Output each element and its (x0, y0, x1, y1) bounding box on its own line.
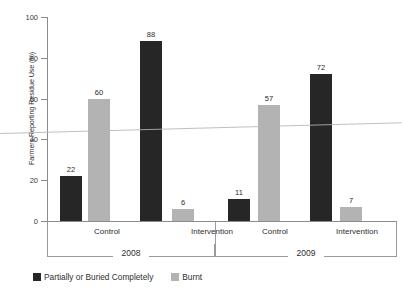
y-axis-tick-label: 60 (8, 95, 38, 104)
y-axis-tick-label: 20 (8, 176, 38, 185)
y-axis-tick-label: 100 (8, 13, 38, 22)
category-separator (47, 222, 48, 244)
legend-label: Burnt (182, 272, 202, 282)
y-axis-tick-label: 40 (8, 135, 38, 144)
plot-area (47, 17, 397, 221)
legend: Partially or Buried Completely Burnt (33, 272, 202, 282)
legend-swatch-icon (171, 273, 179, 281)
y-axis-tick-label: 80 (8, 54, 38, 63)
bar (310, 74, 332, 221)
y-axis-tick-label: 0 (8, 217, 38, 226)
year-label-2008: 2008 (47, 248, 215, 258)
bar (88, 99, 110, 221)
bar-value-label: 60 (88, 88, 110, 97)
legend-label: Partially or Buried Completely (44, 272, 153, 282)
legend-swatch-icon (33, 273, 41, 281)
bar-value-label: 7 (340, 196, 362, 205)
bar (60, 176, 82, 221)
bar (228, 199, 250, 221)
category-label: Intervention (307, 227, 402, 236)
bar-value-label: 11 (228, 188, 250, 197)
legend-item-burnt: Burnt (171, 272, 202, 282)
year-label-2009: 2009 (215, 248, 397, 258)
legend-item-partially-buried: Partially or Buried Completely (33, 272, 153, 282)
bar-value-label: 72 (310, 63, 332, 72)
bar-value-label: 57 (258, 94, 280, 103)
bar (258, 105, 280, 221)
bar-chart: Farmers Reporting Residue Use (%) 100806… (0, 0, 402, 296)
bar (340, 207, 362, 221)
category-label: Control (57, 227, 157, 236)
bar-value-label: 6 (172, 198, 194, 207)
bar-value-label: 22 (60, 165, 82, 174)
bar-value-label: 88 (140, 30, 162, 39)
y-axis-title: Farmers Reporting Residue Use (%) (27, 14, 36, 204)
bar (172, 209, 194, 221)
bar (140, 41, 162, 221)
